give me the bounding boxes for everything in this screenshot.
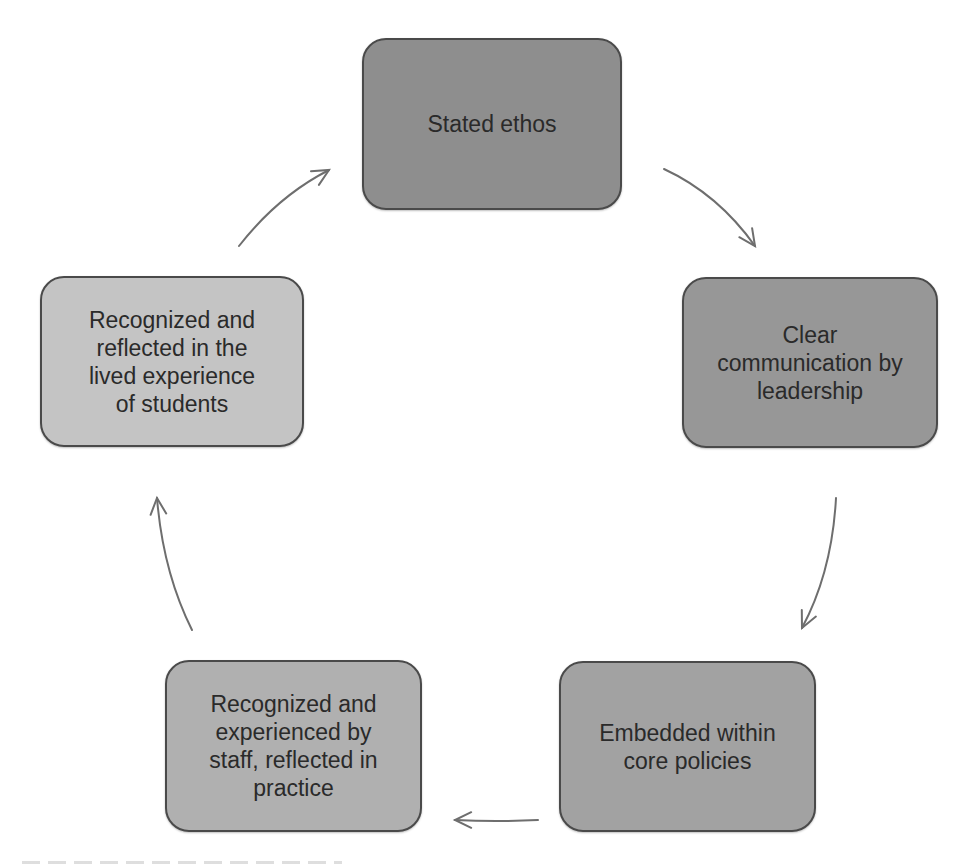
node-embedded-policies: Embedded within core policies [559, 661, 816, 832]
caption-text-fragment [22, 861, 342, 864]
node-label: Embedded within core policies [599, 719, 775, 775]
node-label: Recognized and experienced by staff, ref… [209, 690, 377, 802]
node-student-experience: Recognized and reflected in the lived ex… [40, 276, 304, 447]
node-clear-communication: Clear communication by leadership [682, 277, 938, 448]
arrow-icon [455, 812, 538, 828]
node-label: Clear communication by leadership [717, 321, 902, 405]
node-label: Stated ethos [427, 110, 556, 138]
arrow-icon [802, 498, 836, 628]
node-label: Recognized and reflected in the lived ex… [89, 306, 255, 418]
node-stated-ethos: Stated ethos [362, 38, 622, 210]
arrow-icon [664, 169, 755, 246]
figure-caption-clipped [22, 853, 342, 868]
arrow-icon [151, 498, 192, 630]
arrow-icon [239, 170, 329, 246]
node-staff-practice: Recognized and experienced by staff, ref… [165, 660, 422, 832]
